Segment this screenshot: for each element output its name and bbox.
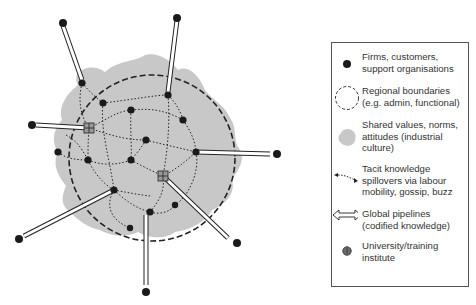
legend-label: Regional boundaries (e.g. admin, functio…	[362, 85, 468, 108]
legend-item-tacit: Tacit knowledge spillovers via labour mo…	[332, 163, 470, 199]
hollow-double-arrow-icon	[332, 205, 358, 225]
legend-label: Shared values, norms, attitudes (industr…	[362, 119, 468, 154]
legend-item-firms: Firms, customers, support organisations	[332, 51, 470, 77]
legend-label: Firms, customers, support organisations	[362, 51, 468, 74]
legend-label: Global pipelines (codified knowledge)	[362, 208, 468, 231]
legend-item-pipelines: Global pipelines (codified knowledge)	[332, 208, 470, 234]
dotted-double-arrow-icon	[332, 167, 358, 187]
dashed-circle-icon	[334, 83, 360, 113]
legend-item-university: University/training institute	[332, 240, 470, 266]
grey-blob-icon	[334, 121, 360, 153]
legend-label: University/training institute	[362, 240, 468, 263]
legend-item-boundaries: Regional boundaries (e.g. admin, functio…	[332, 85, 470, 111]
globe-grid-icon	[334, 240, 360, 262]
legend-item-culture: Shared values, norms, attitudes (industr…	[332, 119, 470, 155]
firm-dot-icon	[334, 51, 360, 77]
legend: Firms, customers, support organisations …	[331, 42, 469, 287]
legend-label: Tacit knowledge spillovers via labour mo…	[362, 163, 468, 198]
